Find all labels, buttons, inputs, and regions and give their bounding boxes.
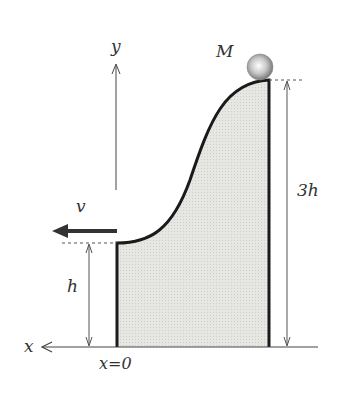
velocity-arrow <box>52 224 117 238</box>
height-h-label: h <box>67 278 78 295</box>
height-3h-label: 3h <box>297 182 319 199</box>
x-axis-label: x <box>24 338 34 355</box>
dimension-h <box>86 244 92 346</box>
physics-diagram: y M v 3h h x x=0 <box>0 0 348 406</box>
velocity-label: v <box>76 198 86 215</box>
mass-label: M <box>216 43 233 60</box>
mass-ball <box>247 54 273 80</box>
origin-label: x=0 <box>99 356 132 372</box>
ramp-block <box>117 80 269 347</box>
y-axis-arrow <box>112 64 120 190</box>
dimension-3h <box>284 81 290 346</box>
diagram-canvas <box>0 0 348 406</box>
y-axis-label: y <box>111 38 121 55</box>
